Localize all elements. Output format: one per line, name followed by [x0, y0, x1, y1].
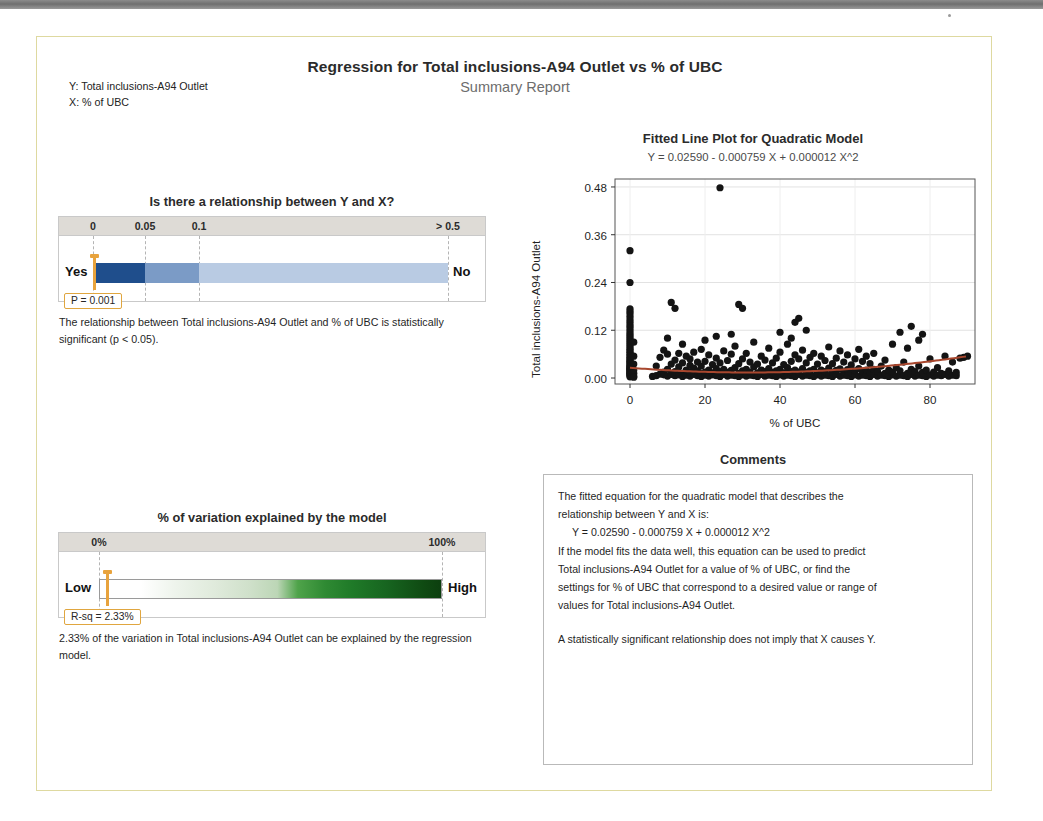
data-point	[851, 355, 858, 362]
data-point	[713, 333, 720, 340]
scan-artifact-bar	[0, 0, 1043, 9]
p-value-marker-cap	[90, 254, 99, 258]
data-point	[675, 350, 682, 357]
p-value-marker	[93, 257, 96, 290]
data-point	[698, 346, 705, 353]
regression-summary-report: Regression for Total inclusions-A94 Outl…	[36, 36, 992, 791]
data-point	[716, 359, 723, 366]
data-point	[720, 347, 727, 354]
data-point	[701, 337, 708, 344]
relationship-blurb: The relationship between Total inclusion…	[59, 314, 479, 347]
r-squared-marker-cap	[103, 570, 112, 574]
p-value-gauge-body: Yes No P = 0.001	[59, 236, 485, 301]
comment-line-2: relationship between Y and X is:	[558, 505, 960, 523]
x-axis-tick-label: 20	[699, 393, 712, 406]
data-point	[630, 339, 637, 346]
data-point	[728, 351, 735, 358]
data-point	[799, 347, 806, 354]
variation-blurb: 2.33% of the variation in Total inclusio…	[59, 630, 479, 663]
comment-line-3: If the model fits the data well, this eq…	[558, 542, 960, 560]
x-axis-tick-label: 60	[849, 393, 862, 406]
p-gauge-yes-label: Yes	[65, 264, 87, 279]
data-point	[821, 357, 828, 364]
response-variable-label: Y: Total inclusions-A94 Outlet	[69, 80, 208, 92]
data-point	[626, 247, 633, 254]
data-point	[881, 357, 888, 364]
data-point	[671, 357, 678, 364]
x-axis-title: % of UBC	[615, 416, 975, 429]
data-point	[701, 358, 708, 365]
data-point	[664, 335, 671, 342]
r-gauge-high-label: High	[448, 580, 477, 595]
data-point	[630, 360, 637, 367]
p-scale-label-01: 0.1	[192, 220, 207, 232]
comment-line-7: A statistically significant relationship…	[558, 630, 960, 648]
data-point	[761, 357, 768, 364]
data-point	[788, 335, 795, 342]
data-point	[784, 341, 791, 348]
data-point	[776, 349, 783, 356]
r-squared-callout: R-sq = 2.33%	[64, 609, 141, 625]
p-value-bar	[93, 263, 448, 283]
data-point	[656, 354, 663, 361]
data-point	[833, 355, 840, 362]
data-point	[630, 374, 637, 381]
data-point	[803, 327, 810, 334]
data-point	[668, 299, 675, 306]
r-scale-label-100: 100%	[428, 536, 455, 548]
data-point	[788, 358, 795, 365]
r-squared-gauge-scale: 0% 100%	[59, 533, 485, 552]
data-point	[855, 346, 862, 353]
data-point	[814, 360, 821, 367]
data-point	[626, 279, 633, 286]
comment-spacer	[558, 614, 960, 630]
data-point	[765, 345, 772, 352]
comments-text: The fitted equation for the quadratic mo…	[558, 487, 960, 649]
data-point	[795, 315, 802, 322]
y-axis-tick-label: 0.24	[567, 276, 607, 289]
data-point	[904, 345, 911, 352]
report-title: Regression for Total inclusions-A94 Outl…	[37, 58, 993, 76]
data-point	[728, 331, 735, 338]
comment-line-1: The fitted equation for the quadratic mo…	[558, 487, 960, 505]
r-gauge-low-label: Low	[65, 580, 91, 595]
data-point	[848, 361, 855, 368]
data-point	[739, 305, 746, 312]
r-gridline-100	[442, 552, 443, 617]
x-axis-tick-label: 40	[774, 393, 787, 406]
scatter-plot-svg	[507, 167, 985, 442]
p-value-callout: P = 0.001	[64, 293, 122, 309]
data-point	[679, 359, 686, 366]
data-point	[844, 351, 851, 358]
data-point	[919, 331, 926, 338]
y-axis-title: Total inclusions-A94 Outlet	[529, 241, 542, 378]
p-value-gauge-scale: 0 0.05 0.1 > 0.5	[59, 217, 485, 236]
data-point	[716, 184, 723, 191]
p-bar-segment-significant	[93, 263, 145, 283]
y-axis-tick-label: 0.36	[567, 228, 607, 241]
data-point	[795, 355, 802, 362]
comments-box: The fitted equation for the quadratic mo…	[543, 474, 973, 765]
fitted-plot-equation: Y = 0.02590 - 0.000759 X + 0.000012 X^2	[523, 151, 983, 163]
x-axis-tick-label: 80	[924, 393, 937, 406]
r-squared-marker	[106, 573, 109, 606]
p-bar-segment-marginal	[145, 263, 199, 283]
data-point	[690, 349, 697, 356]
p-gauge-no-label: No	[453, 264, 470, 279]
data-point	[743, 350, 750, 357]
data-point	[810, 350, 817, 357]
x-axis-tick-label: 0	[627, 393, 633, 406]
relationship-panel-title: Is there a relationship between Y and X?	[57, 194, 487, 209]
r-scale-label-0: 0%	[91, 536, 106, 548]
r-squared-gauge: 0% 100% Low High R-sq = 2.33%	[58, 532, 486, 618]
variation-panel-title: % of variation explained by the model	[57, 510, 487, 525]
data-point	[896, 329, 903, 336]
data-point	[671, 305, 678, 312]
p-gridline-05	[448, 236, 449, 301]
data-point	[870, 350, 877, 357]
data-point	[754, 360, 761, 367]
p-scale-label-0: 0	[90, 220, 96, 232]
r-squared-gauge-body: Low High R-sq = 2.33%	[59, 552, 485, 617]
data-point	[825, 343, 832, 350]
comment-line-5: settings for % of UBC that correspond to…	[558, 578, 960, 596]
